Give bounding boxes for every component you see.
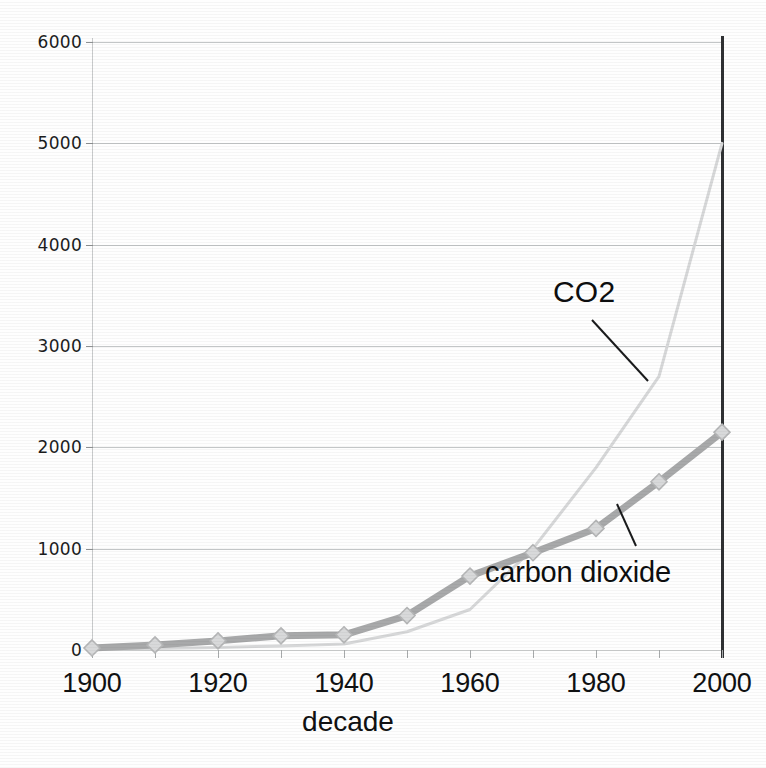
annotation-leader-line — [617, 504, 636, 546]
data-point-marker — [84, 640, 100, 656]
x-axis-tick-labels: 190019201940196019802000 — [0, 668, 766, 702]
annotation-co2: CO2 — [553, 275, 615, 309]
x-axis-tick-label: 1980 — [541, 668, 651, 699]
annotation-carbon-dioxide: carbon dioxide — [485, 556, 671, 589]
x-axis-tick-label: 1920 — [163, 668, 273, 699]
x-axis-title: decade — [0, 706, 766, 738]
x-axis-tick-label: 1900 — [37, 668, 147, 699]
annotation-leader-line — [592, 320, 648, 381]
data-point-marker — [273, 628, 289, 644]
x-axis-tick-label: 2000 — [667, 668, 766, 699]
x-axis-title-text: decade — [302, 706, 394, 738]
data-point-marker — [147, 637, 163, 653]
chart-figure: 0100020003000400050006000 19001920194019… — [0, 0, 766, 768]
x-axis-tick-label: 1960 — [415, 668, 525, 699]
data-series-layer — [0, 0, 766, 768]
data-point-marker — [336, 627, 352, 643]
x-axis-tick-label: 1940 — [289, 668, 399, 699]
